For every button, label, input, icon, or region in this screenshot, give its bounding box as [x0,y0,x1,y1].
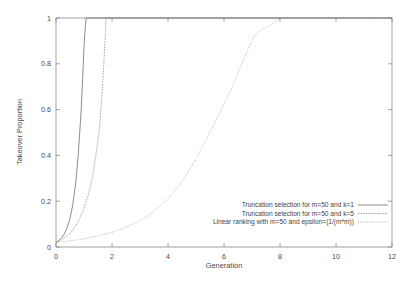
x-tick-label: 10 [332,252,340,261]
x-tick-label: 6 [222,252,226,261]
x-tick-label: 2 [110,252,114,261]
x-tick-label: 0 [54,252,58,261]
x-tick-label: 4 [166,252,170,261]
y-tick-label: 1 [47,14,51,23]
legend-label-2: Truncation selection for m=50 and k=5 [242,210,355,217]
x-tick-label: 8 [278,252,282,261]
y-tick-label: 0.2 [41,197,51,206]
y-tick-label: 0.8 [41,59,51,68]
y-tick-label: 0.6 [41,105,51,114]
chart-background [0,0,411,284]
y-axis-title: Takeover Proportion [15,99,24,165]
chart-container: 024681012 00.20.40.60.81 Generation Take… [0,0,411,284]
line-chart: 024681012 00.20.40.60.81 Generation Take… [0,0,411,284]
y-tick-label: 0 [47,243,51,252]
x-tick-label: 12 [388,252,396,261]
x-axis-title: Generation [206,261,243,270]
y-tick-label: 0.4 [41,151,51,160]
legend-label-1: Truncation selection for m=50 and k=1 [242,201,355,208]
legend-label-3: Linear ranking with m=50 and epsilon=(1/… [213,218,354,226]
